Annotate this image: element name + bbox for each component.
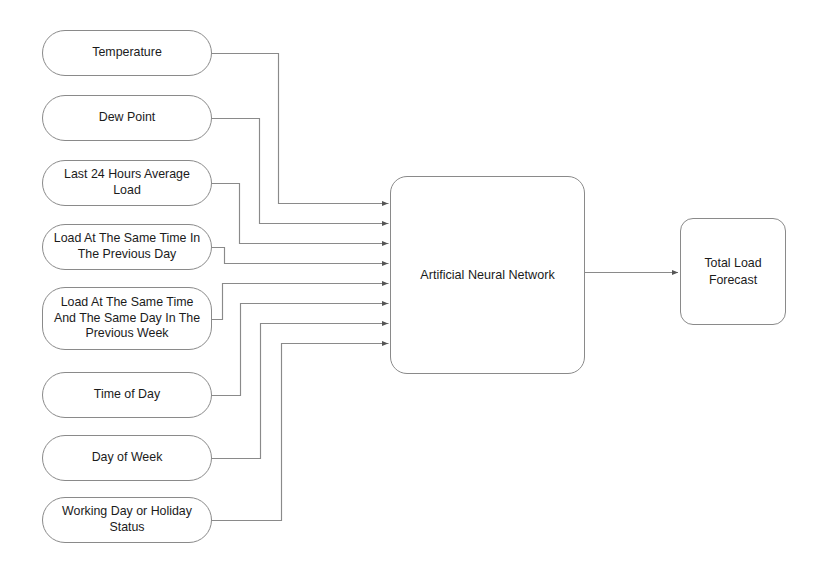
connector-time-of-day (212, 304, 388, 396)
artificial-neural-network-node[interactable]: Artificial Neural Network (390, 176, 585, 374)
input-node-label: Last 24 Hours Average Load (64, 167, 190, 199)
input-node-dew-point[interactable]: Dew Point (42, 95, 212, 141)
total-load-forecast-label: Total Load Forecast (704, 255, 761, 287)
input-node-label: Dew Point (99, 110, 155, 126)
input-node-label: Working Day or Holiday Status (62, 504, 192, 536)
total-load-forecast-node[interactable]: Total Load Forecast (680, 218, 786, 325)
input-node-label: Load At The Same Time In The Previous Da… (54, 231, 200, 263)
diagram-canvas: TemperatureDew PointLast 24 Hours Averag… (0, 0, 816, 573)
input-node-temperature[interactable]: Temperature (42, 30, 212, 76)
connector-temperature (212, 54, 388, 204)
connector-last-24-hours-average-load (212, 184, 388, 244)
connector-load-same-time-same-day-previous-week (212, 284, 388, 320)
connector-dew-point (212, 119, 388, 224)
input-node-day-of-week[interactable]: Day of Week (42, 435, 212, 481)
input-node-load-same-time-previous-day[interactable]: Load At The Same Time In The Previous Da… (42, 224, 212, 270)
input-connectors (212, 54, 388, 521)
input-node-working-day-or-holiday-status[interactable]: Working Day or Holiday Status (42, 497, 212, 543)
input-node-load-same-time-same-day-previous-week[interactable]: Load At The Same Time And The Same Day I… (42, 287, 212, 350)
input-node-time-of-day[interactable]: Time of Day (42, 372, 212, 418)
input-node-last-24-hours-average-load[interactable]: Last 24 Hours Average Load (42, 160, 212, 206)
input-node-label: Temperature (92, 45, 162, 61)
artificial-neural-network-label: Artificial Neural Network (420, 268, 554, 282)
input-node-label: Day of Week (92, 450, 163, 466)
input-node-label: Load At The Same Time And The Same Day I… (54, 295, 200, 343)
connector-load-same-time-previous-day (212, 248, 388, 264)
input-node-label: Time of Day (94, 387, 160, 403)
connector-working-day-or-holiday-status (212, 344, 388, 521)
